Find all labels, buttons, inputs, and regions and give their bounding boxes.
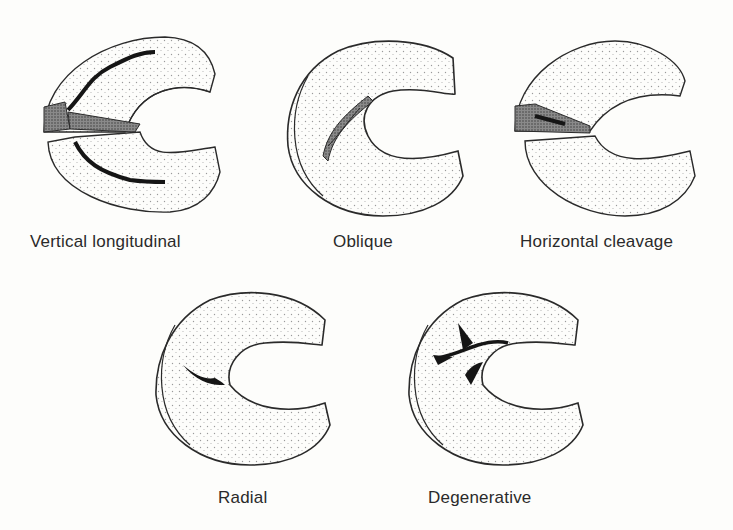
diagram-radial bbox=[150, 285, 350, 470]
label-degenerative: Degenerative bbox=[428, 488, 532, 508]
label-horizontal-cleavage: Horizontal cleavage bbox=[520, 232, 673, 252]
meniscus-illustration bbox=[403, 285, 603, 470]
meniscus-illustration bbox=[283, 36, 483, 221]
meniscus-illustration bbox=[510, 36, 710, 221]
diagram-degenerative bbox=[403, 285, 603, 470]
meniscus-illustration bbox=[150, 285, 350, 470]
diagram-horizontal-cleavage bbox=[510, 36, 710, 221]
diagram-vertical-longitudinal bbox=[30, 32, 230, 217]
label-vertical-longitudinal: Vertical longitudinal bbox=[30, 232, 181, 252]
label-radial: Radial bbox=[218, 488, 267, 508]
diagram-oblique bbox=[283, 36, 483, 221]
meniscus-illustration bbox=[30, 32, 230, 217]
label-oblique: Oblique bbox=[333, 232, 393, 252]
